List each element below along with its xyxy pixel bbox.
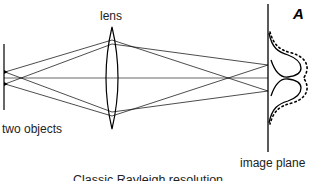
caption: Classic Rayleigh resolution	[73, 174, 223, 181]
lens-label: lens	[100, 10, 122, 22]
objects-label: two objects	[2, 123, 62, 135]
image-plane-label: image plane	[240, 157, 305, 169]
panel-label: A	[293, 6, 304, 21]
profile-sum-dotted	[270, 32, 307, 124]
optics-diagram	[0, 0, 311, 181]
